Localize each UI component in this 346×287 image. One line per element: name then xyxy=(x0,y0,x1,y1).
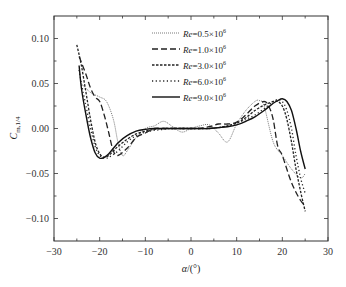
x-tick-labels: −30−20−100102030 xyxy=(46,246,333,257)
y-axis-title: Cm,1/4 xyxy=(8,116,22,139)
y-axis-subscript: m,1/4 xyxy=(14,116,22,133)
series-line-3 xyxy=(79,70,305,193)
x-tick-label: 20 xyxy=(277,246,287,257)
legend: Re=0.5×106Re=1.0×106Re=3.0×106Re=6.0×106… xyxy=(152,28,226,103)
x-axis-unit: /(°) xyxy=(187,263,200,275)
x-axis-title: α/(°) xyxy=(182,263,201,275)
x-tick-label: 10 xyxy=(232,246,242,257)
x-tick-label: −10 xyxy=(138,246,154,257)
legend-label: Re=0.5×106 xyxy=(182,28,226,39)
y-tick-label: 0.00 xyxy=(32,123,50,134)
pitching-moment-chart: −30−20−100102030 0.100.050.00−0.05−0.10 … xyxy=(0,0,346,287)
y-tick-label: 0.10 xyxy=(32,33,50,44)
y-tick-label: −0.05 xyxy=(26,168,49,179)
legend-label: Re=6.0×106 xyxy=(182,76,226,87)
x-tick-label: 0 xyxy=(189,246,194,257)
y-tick-label: 0.05 xyxy=(32,78,50,89)
x-tick-label: −20 xyxy=(92,246,108,257)
legend-label: Re=3.0×106 xyxy=(182,60,226,71)
y-tick-label: −0.10 xyxy=(26,213,49,224)
x-tick-label: −30 xyxy=(46,246,62,257)
y-tick-labels: 0.100.050.00−0.05−0.10 xyxy=(26,33,49,224)
x-tick-label: 30 xyxy=(323,246,333,257)
legend-label: Re=9.0×106 xyxy=(182,92,226,103)
legend-label: Re=1.0×106 xyxy=(182,44,226,55)
